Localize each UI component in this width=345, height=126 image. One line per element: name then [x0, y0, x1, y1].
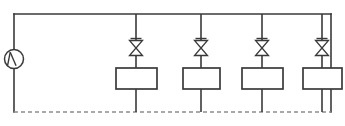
branch-4-globe-valve-icon[interactable] [316, 41, 329, 56]
piping-schematic-diagram [0, 0, 345, 126]
circulator-pump [5, 50, 24, 69]
branch-1-heat-emitter[interactable] [116, 68, 157, 89]
branch-3-globe-valve-icon[interactable] [256, 41, 269, 56]
branch-layer [116, 14, 342, 112]
branch-2-globe-valve-icon[interactable] [195, 41, 208, 56]
branch-2-heat-emitter[interactable] [183, 68, 220, 89]
branch-4-heat-emitter[interactable] [303, 68, 342, 89]
branch-1-globe-valve-icon[interactable] [130, 41, 143, 56]
branch-2 [183, 14, 220, 112]
branch-3 [242, 14, 283, 112]
branch-4 [303, 14, 342, 112]
schematic-canvas [0, 0, 345, 126]
branch-1 [116, 14, 157, 112]
branch-3-heat-emitter[interactable] [242, 68, 283, 89]
